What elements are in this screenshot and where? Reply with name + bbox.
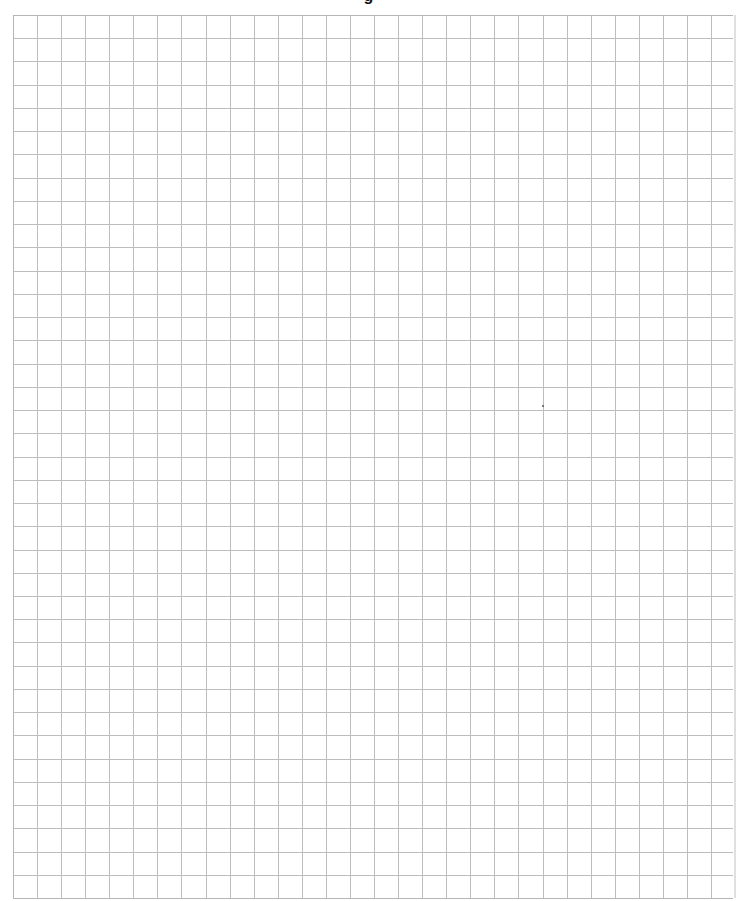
pencil-speck <box>542 405 544 407</box>
grid-paper <box>0 0 737 901</box>
graph-paper-page: g <box>0 0 737 901</box>
scan-edge-line <box>734 15 736 898</box>
